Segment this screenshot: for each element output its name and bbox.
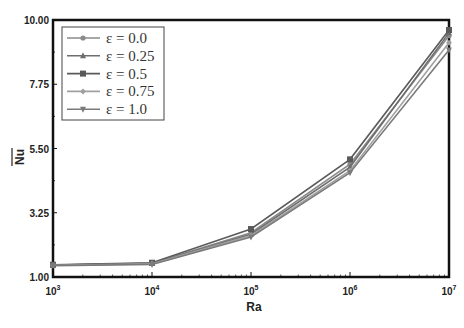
legend-label: ε = 0.75: [106, 83, 155, 99]
legend-label: ε = 0.5: [106, 66, 147, 82]
x-tick-label: 105: [243, 284, 258, 297]
x-tick-label: 104: [144, 284, 159, 297]
y-axis-title: Nu: [12, 148, 27, 166]
legend: ε = 0.0ε = 0.25ε = 0.5ε = 0.75ε = 1.0: [62, 27, 164, 120]
nusselt-vs-rayleigh-chart: 1.003.255.507.7510.00 103104105106107 ε …: [0, 0, 464, 328]
x-tick-label: 103: [45, 284, 60, 297]
y-tick-label: 7.75: [30, 79, 50, 90]
y-tick-label: 1.00: [30, 272, 50, 283]
legend-label: ε = 0.25: [106, 48, 155, 64]
legend-label: ε = 0.0: [106, 30, 147, 46]
legend-label: ε = 1.0: [106, 101, 147, 117]
x-axis-title: Ra: [246, 300, 262, 314]
y-tick-label: 3.25: [30, 208, 50, 219]
y-tick-label: 10.00: [24, 15, 49, 26]
y-axis-title-text: Nu: [13, 149, 27, 165]
x-tick-label: 106: [342, 284, 357, 297]
x-tick-label: 107: [441, 284, 456, 297]
y-tick-label: 5.50: [30, 144, 50, 155]
